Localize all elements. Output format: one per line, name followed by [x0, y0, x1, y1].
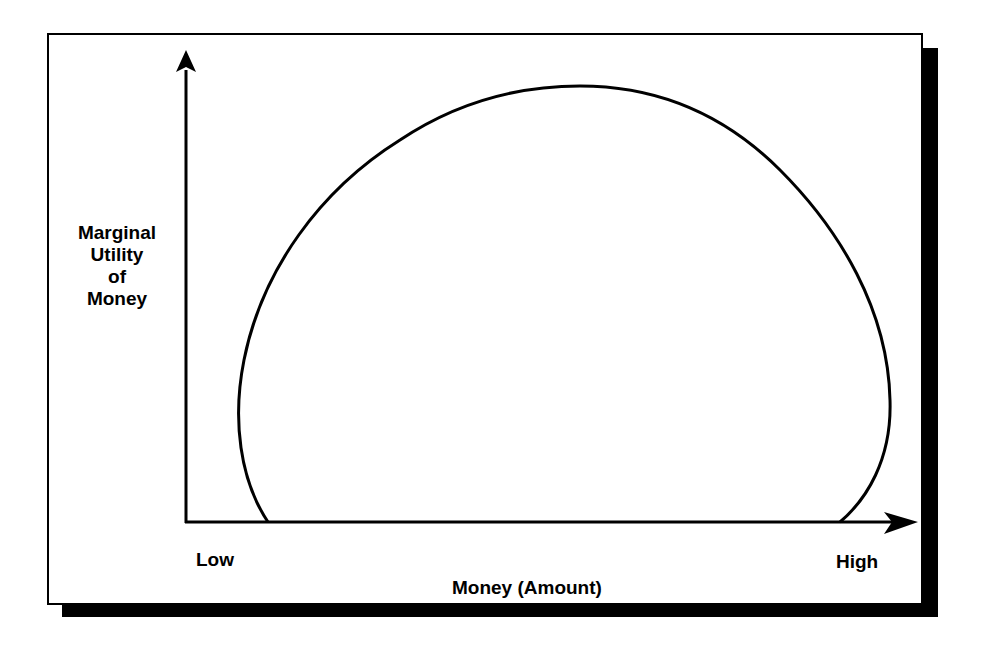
y-axis-arrow-icon: [176, 50, 196, 72]
diagram-plot: [0, 0, 982, 648]
x-axis-label: Money (Amount): [452, 577, 602, 599]
x-high-label: High: [836, 551, 878, 573]
y-axis-label-line: Money: [52, 288, 182, 310]
marginal-utility-curve: [239, 86, 891, 522]
y-axis-label: Marginal Utility of Money: [52, 222, 182, 310]
y-axis-label-line: Marginal: [52, 222, 182, 244]
y-axis-label-line: of: [52, 266, 182, 288]
x-low-label: Low: [196, 549, 234, 571]
y-axis-label-line: Utility: [52, 244, 182, 266]
